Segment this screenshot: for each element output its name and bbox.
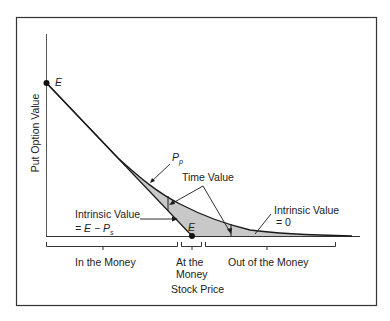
intrinsic-right-label-1: Intrinsic Value <box>274 204 339 216</box>
put-curve-label: Pp <box>172 151 183 168</box>
time-value-label: Time Value <box>182 171 234 183</box>
put-curve-label-main: P <box>172 151 179 163</box>
intrinsic-left-formula-sub: s <box>110 229 114 236</box>
y-axis-label: Put Option Value <box>29 94 41 173</box>
x-axis-label: Stock Price <box>171 283 224 295</box>
region-label-out-of-the-money: Out of the Money <box>228 256 309 268</box>
region-label-in-the-money: In the Money <box>75 256 136 268</box>
bracket-in-the-money <box>47 242 178 247</box>
bracket-out-of-the-money <box>206 242 336 247</box>
intrinsic-right-label-2: = 0 <box>276 216 291 228</box>
strike-point-x <box>189 233 195 239</box>
intrinsic-left-label-1: Intrinsic Value <box>75 208 140 220</box>
bracket-at-the-money <box>182 242 202 247</box>
intrinsic-left-formula: = E − P <box>75 222 110 234</box>
put-option-diagram: Put Option Value E E Pp Time Value Intri… <box>0 0 390 321</box>
intrinsic-left-label-2: = E − Ps <box>75 222 114 239</box>
strike-point-y <box>44 80 50 86</box>
put-curve-label-sub: p <box>179 158 183 165</box>
region-brackets <box>47 242 336 250</box>
region-label-at-the-money-2: Money <box>176 268 208 280</box>
strike-label-y: E <box>55 76 62 88</box>
strike-label-x: E <box>188 221 195 233</box>
region-label-at-the-money-1: At the <box>176 256 203 268</box>
pp-pointer <box>152 164 170 181</box>
time-value-region <box>118 158 352 236</box>
